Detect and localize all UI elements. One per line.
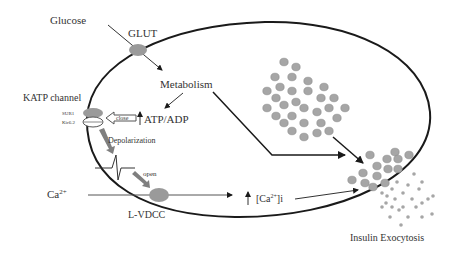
insulin-granule <box>300 104 308 112</box>
released-insulin-particle <box>399 223 403 227</box>
released-insulin-particle <box>385 194 389 198</box>
released-insulin-particle <box>380 191 384 195</box>
insulin-granule <box>304 87 312 95</box>
beta-cell-diagram: Glucose GLUT Metabolism KATP channel SUR… <box>0 0 457 253</box>
insulin-granule <box>288 112 296 120</box>
insulin-granule <box>300 133 308 141</box>
released-insulin-particle <box>395 180 399 184</box>
released-insulin-particle <box>388 215 392 219</box>
insulin-granule <box>288 127 296 135</box>
katp-channel <box>83 108 103 127</box>
calcium-external-label: Ca2+ <box>47 188 67 200</box>
insulin-granule <box>359 169 367 177</box>
metabolism-label: Metabolism <box>160 78 213 90</box>
released-insulin-particle <box>390 187 394 191</box>
released-insulin-particle <box>420 215 424 219</box>
released-insulin-particle <box>393 197 397 201</box>
insulin-granule <box>369 183 377 191</box>
released-insulin-particle <box>412 172 416 176</box>
released-insulin-particle <box>426 197 430 201</box>
released-insulin-particle <box>406 215 410 219</box>
insulin-granule <box>333 114 341 122</box>
insulin-granule <box>313 129 321 137</box>
released-insulin-particle <box>401 191 405 195</box>
insulin-granule <box>366 151 374 159</box>
insulin-granule <box>384 165 392 173</box>
released-insulin-particle <box>417 187 421 191</box>
insulin-granule <box>373 172 381 180</box>
insulin-granule <box>317 119 325 127</box>
released-insulin-particle <box>380 205 384 209</box>
insulin-granule <box>348 176 356 184</box>
insulin-granule <box>394 155 402 163</box>
l-vdcc-channel <box>149 188 169 202</box>
insulin-granule <box>325 127 333 135</box>
intracellular-calcium-label: [Ca2+]i <box>256 193 283 204</box>
insulin-granule <box>341 104 349 112</box>
insulin-granule <box>288 87 296 95</box>
insulin-granule <box>391 148 399 156</box>
insulin-granule <box>280 101 288 109</box>
insulin-granule <box>383 155 391 163</box>
insulin-granule <box>300 119 308 127</box>
released-insulin-particle <box>414 205 418 209</box>
released-insulin-particle <box>397 208 401 212</box>
released-insulin-particle <box>401 205 405 209</box>
depolarization-label: Depolarization <box>108 136 156 145</box>
cai-to-exocytosis-arrow <box>295 190 358 199</box>
released-insulin-particle <box>430 212 434 216</box>
released-insulin-particle <box>410 197 414 201</box>
insulin-granule <box>292 63 300 71</box>
atp-adp-label: ATP/ADP <box>144 113 189 125</box>
l-vdcc-label: L-VDCC <box>128 209 166 220</box>
insulin-granule <box>271 73 279 81</box>
released-insulin-particle <box>390 205 394 209</box>
insulin-granule <box>361 179 369 187</box>
glut-transporter <box>129 44 147 56</box>
kir62-label: Kir6.2 <box>62 120 75 125</box>
insulin-granule <box>276 83 284 91</box>
insulin-granule <box>381 179 389 187</box>
insulin-granule <box>288 73 296 81</box>
insulin-granule <box>292 98 300 106</box>
insulin-granule <box>263 87 271 95</box>
glut-label: GLUT <box>128 27 158 39</box>
insulin-granule <box>330 94 338 102</box>
insulin-granule <box>313 108 321 116</box>
insulin-granules <box>263 58 435 227</box>
sur1-label: SUR1 <box>62 111 75 116</box>
insulin-granule <box>320 83 328 91</box>
released-insulin-particle <box>384 201 388 205</box>
metabolism-to-atp-arrow <box>165 93 183 108</box>
insulin-granule <box>263 104 271 112</box>
action-potential-trace <box>95 155 135 180</box>
insulin-granule <box>280 119 288 127</box>
released-insulin-particle <box>406 183 410 187</box>
katp-channel-label: KATP channel <box>23 92 81 103</box>
insulin-granule <box>394 165 402 173</box>
insulin-granule <box>304 77 312 85</box>
insulin-granule <box>280 58 288 66</box>
insulin-granule <box>272 94 280 102</box>
insulin-granule <box>272 112 280 120</box>
insulin-granule <box>325 104 333 112</box>
insulin-granule <box>405 151 413 159</box>
insulin-granule <box>373 162 381 170</box>
insulin-granule <box>317 94 325 102</box>
released-insulin-particle <box>431 194 435 198</box>
insulin-exocytosis-label: Insulin Exocytosis <box>350 232 424 243</box>
open-label: open <box>143 170 157 178</box>
released-insulin-particle <box>420 180 424 184</box>
glucose-label: Glucose <box>50 14 86 26</box>
granule-translocation-arrow <box>333 137 363 163</box>
released-insulin-particle <box>420 201 424 205</box>
close-label: close <box>116 115 129 121</box>
